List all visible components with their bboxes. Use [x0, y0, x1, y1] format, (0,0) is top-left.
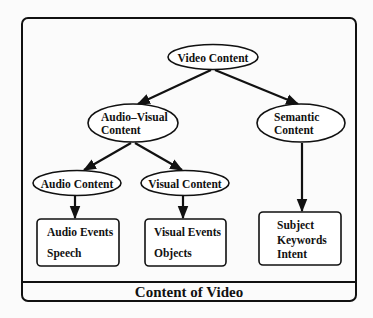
node-label: Audio–Visual: [101, 111, 168, 123]
edge-video-to-semantic: [215, 70, 298, 104]
node-label: Audio Content: [41, 178, 114, 190]
node-label: Visual Content: [148, 178, 222, 190]
node-audio-events-box: Audio Events Speech: [37, 219, 119, 266]
node-label: Video Content: [178, 52, 249, 64]
edge-audiovisual-to-audio: [84, 143, 131, 170]
node-label: Subject: [277, 219, 314, 232]
node-visual-content: Visual Content: [141, 171, 229, 196]
node-audio-content: Audio Content: [33, 171, 121, 196]
node-semantic-box: Subject Keywords Intent: [259, 212, 341, 265]
node-semantic-content: Semantic Content: [257, 104, 345, 142]
node-label: Audio Events: [47, 226, 114, 238]
node-label: Objects: [154, 247, 192, 260]
node-label: Content: [274, 124, 314, 136]
edge-video-to-audiovisual: [138, 70, 211, 104]
caption: Content of Video: [135, 284, 243, 300]
node-video-content: Video Content: [168, 45, 258, 70]
node-audio-visual-content: Audio–Visual Content: [88, 104, 178, 142]
node-label: Semantic: [274, 111, 319, 123]
node-label: Keywords: [277, 234, 327, 247]
node-label: Visual Events: [154, 226, 222, 238]
edge-audiovisual-to-visual: [135, 143, 182, 170]
node-label: Speech: [47, 247, 82, 260]
node-visual-events-box: Visual Events Objects: [145, 219, 226, 266]
node-label: Content: [101, 124, 141, 136]
node-label: Intent: [277, 248, 307, 260]
content-of-video-diagram: Content of Video Video Content Audio–Vis…: [0, 0, 373, 318]
